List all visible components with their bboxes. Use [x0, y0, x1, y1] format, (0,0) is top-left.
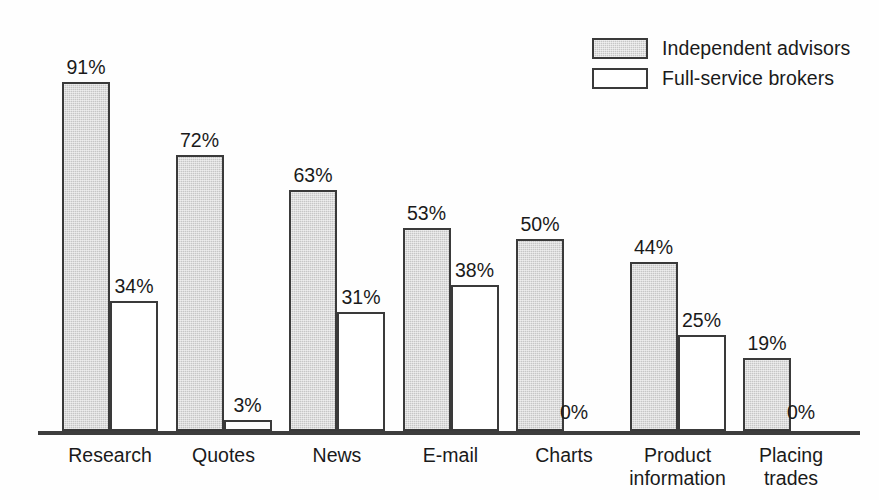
legend-label-independent-advisors: Independent advisors: [662, 37, 850, 60]
legend-item-full-service-brokers: Full-service brokers: [592, 63, 850, 93]
bar: [743, 358, 791, 431]
bar: [62, 82, 110, 431]
bar-value-label: 50%: [506, 215, 574, 235]
bar-chart: 91%34%72%3%63%31%53%38%50%0%44%25%19%0% …: [0, 0, 879, 500]
bar-value-label: 53%: [393, 204, 461, 224]
bar-value-label: 0%: [560, 403, 628, 423]
bar: [630, 262, 678, 431]
legend-label-full-service-brokers: Full-service brokers: [662, 67, 834, 90]
bar: [516, 239, 564, 431]
legend-item-independent-advisors: Independent advisors: [592, 33, 850, 63]
category-label: Placing trades: [721, 444, 861, 490]
bar-value-label: 38%: [441, 261, 509, 281]
bar-value-label: 31%: [327, 288, 395, 308]
bar-value-label: 34%: [100, 277, 168, 297]
x-axis-line: [38, 431, 860, 435]
bar: [678, 335, 726, 431]
bar-value-label: 3%: [214, 396, 282, 416]
bar: [110, 301, 158, 431]
bar: [224, 420, 272, 431]
legend-swatch-open-icon: [592, 68, 648, 89]
bar-value-label: 25%: [668, 311, 736, 331]
bar-value-label: 44%: [620, 238, 688, 258]
bar-value-label: 0%: [787, 403, 855, 423]
bar: [451, 285, 499, 431]
legend-swatch-shaded-icon: [592, 38, 648, 59]
chart-legend: Independent advisors Full-service broker…: [592, 33, 850, 93]
bar-value-label: 63%: [279, 166, 347, 186]
bar: [176, 155, 224, 431]
bar-value-label: 72%: [166, 131, 234, 151]
bar: [403, 228, 451, 431]
bar-value-label: 19%: [733, 334, 801, 354]
bar: [337, 312, 385, 431]
bar-value-label: 91%: [52, 58, 120, 78]
bar: [289, 190, 337, 431]
